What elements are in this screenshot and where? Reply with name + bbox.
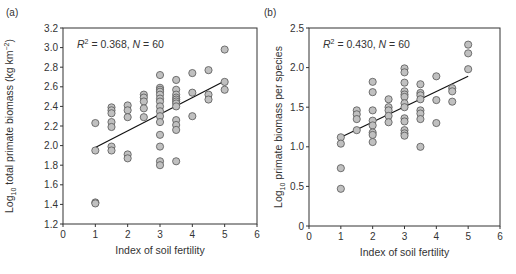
data-point [140,105,147,112]
x-tick-label: 2 [125,229,131,240]
data-point [401,118,408,125]
data-point [417,115,424,122]
x-tick-label: 1 [338,231,344,242]
data-point [221,46,228,53]
data-point [433,96,440,103]
data-point [92,119,99,126]
data-point [124,114,131,121]
data-point [221,78,228,85]
data-point [173,126,180,133]
data-point [353,115,360,122]
x-tick-label: 1 [93,229,99,240]
y-tick-label: 3.2 [44,23,58,34]
y-tick-label: 0.5 [290,181,304,192]
stats-annotation: R2 = 0.368, N = 60 [77,38,164,50]
data-point [353,127,360,134]
data-point [465,50,472,57]
y-tick-label: 1.5 [290,102,304,113]
data-point [108,110,115,117]
data-point [124,107,131,114]
data-point [189,69,196,76]
y-tick-label: 1.6 [44,179,58,190]
data-point [156,118,163,125]
data-point [465,66,472,73]
data-point [433,119,440,126]
data-point [369,89,376,96]
y-tick-label: 1.4 [44,199,58,210]
data-point [401,69,408,76]
data-point [369,138,376,145]
data-point [189,89,196,96]
data-point [173,76,180,83]
x-tick-label: 3 [402,231,408,242]
data-point [205,96,212,103]
data-point [417,96,424,103]
panel-b-chart: 012345600.51.01.52.02.5(b)Index of soil … [264,7,503,258]
data-point [156,71,163,78]
data-point [173,158,180,165]
data-point [156,131,163,138]
data-point [156,162,163,169]
data-point [385,119,392,126]
data-point [401,104,408,111]
data-point [337,140,344,147]
data-point [140,98,147,105]
y-tick-label: 2.6 [44,81,58,92]
data-point [108,123,115,130]
panel-label: (b) [264,7,276,18]
x-tick-label: 0 [60,229,66,240]
data-point [417,143,424,150]
x-tick-label: 4 [434,231,440,242]
x-tick-label: 5 [222,229,228,240]
y-tick-label: 2.2 [44,121,58,132]
y-tick-label: 1.2 [44,219,58,230]
data-point [205,67,212,74]
data-point [449,98,456,105]
data-point [401,79,408,86]
y-axis-label: Log10 primate biomass per species [272,46,286,208]
data-point [173,103,180,110]
panel-label: (a) [6,7,18,18]
y-axis-label: Log10 total primate biomass (kg km−2) [3,39,17,213]
x-tick-label: 3 [157,229,163,240]
x-tick-label: 2 [370,231,376,242]
data-point [337,185,344,192]
x-axis-label: Index of soil fertility [360,246,450,258]
data-point [449,88,456,95]
y-tick-label: 2.8 [44,62,58,73]
y-tick-label: 1.8 [44,160,58,171]
data-point [92,200,99,207]
y-tick-label: 2.0 [290,62,304,73]
y-tick-label: 0 [298,221,304,232]
y-tick-label: 2.5 [290,23,304,34]
y-tick-label: 2.4 [44,101,58,112]
y-tick-label: 2.0 [44,140,58,151]
y-tick-label: 3.0 [44,42,58,53]
data-point [433,73,440,80]
data-point [108,147,115,154]
data-point [337,165,344,172]
data-point [140,114,147,121]
x-tick-label: 6 [497,231,503,242]
data-point [92,147,99,154]
panel-a-chart: 01234561.21.41.61.82.02.22.42.62.83.03.2… [3,7,260,256]
figure: 01234561.21.41.61.82.02.22.42.62.83.03.2… [0,0,516,274]
data-point [369,107,376,114]
data-point [369,122,376,129]
data-point [465,41,472,48]
data-point [124,155,131,162]
data-point [417,81,424,88]
x-axis-label: Index of soil fertility [115,244,205,256]
data-point [189,113,196,120]
data-point [221,86,228,93]
stats-annotation: R2 = 0.430, N = 60 [323,38,410,50]
data-point [156,143,163,150]
data-point [369,131,376,138]
x-tick-label: 6 [254,229,260,240]
x-tick-label: 4 [190,229,196,240]
data-point [385,96,392,103]
x-tick-label: 5 [465,231,471,242]
y-tick-label: 1.0 [290,141,304,152]
data-point [401,132,408,139]
x-tick-label: 0 [306,231,312,242]
